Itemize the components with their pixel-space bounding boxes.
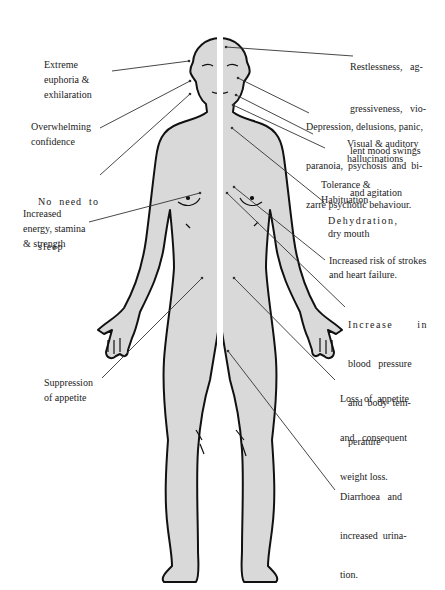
label-line: Increase in [348,318,428,331]
body-effects-diagram: Extreme euphoria & exhilaration Overwhel… [0,0,445,590]
label-line: Tolerance & [321,177,371,192]
label-line: Increased risk of strokes [329,254,426,268]
label-line: tion. [340,568,407,581]
center-split [217,30,223,590]
label-energy: Increased energy, stamina & strength [23,206,85,251]
label-line: Suppression [44,375,93,390]
label-line: Dehydration, [328,214,399,227]
label-line: Loss of appetite [340,392,409,405]
label-line: Overwhelming [31,119,91,134]
label-line: hallucinations [347,151,419,166]
label-line: Extreme [44,57,92,72]
label-confidence: Overwhelming confidence [31,119,91,149]
label-line: Habituation [321,192,371,207]
label-line: increased urina- [340,529,407,542]
label-line: dry mouth [328,227,399,240]
label-line: Restlessness, ag- [350,60,426,74]
label-line: and heart failure. [329,268,426,282]
label-line: & strength [23,236,85,251]
label-line: confidence [31,134,91,149]
label-dehydration: Dehydration, dry mouth [328,214,399,240]
label-line: Diarrhoea and [340,490,407,503]
label-appetite-suppression: Suppression of appetite [44,375,93,405]
label-line: of appetite [44,390,93,405]
label-tolerance: Tolerance & Habituation [321,177,371,207]
label-hallucinations: Visual & auditory hallucinations [347,136,419,166]
label-strokes: Increased risk of strokes and heart fail… [329,254,426,282]
label-line: exhilaration [44,87,92,102]
label-line: Increased [23,206,85,221]
label-line: euphoria & [44,72,92,87]
label-line: Visual & auditory [347,136,419,151]
label-line: energy, stamina [23,221,85,236]
label-euphoria: Extreme euphoria & exhilaration [44,57,92,102]
label-line: and consequent [340,431,409,444]
label-line: Depression, delusions, panic, [306,120,423,133]
label-diarrhoea: Diarrhoea and increased urina- tion. [340,464,407,590]
